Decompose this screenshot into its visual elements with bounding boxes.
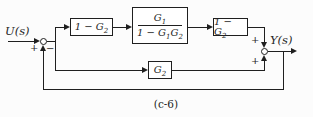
block4-label: G2 [154,65,166,75]
sum1-minus-sign: − [46,44,54,54]
block1-label: 1 − G2 [75,22,109,32]
numerator-base: G [154,12,162,23]
block3-label: 1 − G2 [214,17,247,37]
denominator-mid: G [171,27,179,38]
block4-subscript: 2 [162,70,166,78]
block3-arrowhead-icon [207,24,213,30]
line-block2-block3 [188,27,207,28]
fraction-numerator: G1 [154,13,166,23]
output-signal-label: Y(s) [270,35,292,47]
feedback-up-line [43,51,44,89]
sum2-plus-bottom-sign: + [251,56,259,66]
block1-arrowhead-icon [64,24,70,30]
junction2-top-arrowhead-icon [261,42,267,48]
block1-base: 1 − G [75,21,104,32]
sum1-plus-sign: + [30,43,38,53]
sum2-plus-top-sign: + [251,35,259,45]
figure-caption: (c-6) [140,99,192,110]
block3-out-line [248,27,265,28]
block3-down-line [264,28,265,42]
junction2-bottom-arrowhead-icon [261,55,267,61]
feedback-bottom-line [43,89,284,90]
block4-out-line [172,70,265,71]
fraction-bar [138,25,182,26]
block-1-minus-g2-first: 1 − G2 [70,18,113,36]
fraction-denominator: 1 − G1G2 [137,28,183,38]
output-signal-text: Y(s) [270,33,292,47]
block3-subscript: 2 [222,32,226,40]
summing-junction-2 [261,48,268,55]
block4-arrowhead-icon [142,67,148,73]
junction1-bottom-arrowhead-icon [40,45,46,51]
block1-subscript: 2 [104,27,108,35]
lower-branch-line [56,70,142,71]
feedback-takeoff-line [283,52,284,89]
denominator-subscript2: 2 [179,33,183,41]
block4-up-line [264,61,265,71]
denominator-base: 1 − G [137,27,166,38]
input-signal-text: U(s) [5,24,30,38]
branch-vertical-line [55,27,56,71]
block-4-g2: G2 [148,61,172,79]
block4-base: G [154,64,162,75]
block-3-minus-g2-second: 1 − G2 [213,18,248,36]
output-arrowhead-icon [291,48,297,54]
output-line [268,51,291,52]
block-2-fraction: G1 1 − G1G2 [132,7,188,44]
input-signal-label: U(s) [5,26,30,38]
block-diagram-figure: U(s) + − 1 − G2 G1 1 − G1G2 1 − G2 + + Y… [0,0,313,117]
line-block1-block2 [113,27,126,28]
block2-arrowhead-icon [126,24,132,30]
